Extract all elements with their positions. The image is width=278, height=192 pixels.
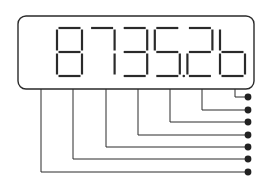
pin-dot-5 — [245, 144, 252, 151]
leader-line-2 — [202, 89, 248, 110]
display-diagram — [0, 0, 278, 192]
pin-dot-7 — [245, 169, 252, 176]
leader-line-6 — [73, 89, 248, 159]
leader-line-4 — [138, 89, 248, 135]
digits-group — [57, 28, 245, 77]
decimal-point — [183, 75, 186, 78]
pin-dot-2 — [245, 107, 252, 114]
pin-dot-3 — [245, 119, 252, 126]
leader-line-5 — [106, 89, 248, 147]
leader-lines — [41, 89, 251, 175]
leader-line-3 — [170, 89, 248, 122]
leader-line-7 — [41, 89, 248, 172]
pin-dot-1 — [245, 94, 252, 101]
pin-dot-6 — [245, 156, 252, 163]
pin-dot-4 — [245, 132, 252, 139]
